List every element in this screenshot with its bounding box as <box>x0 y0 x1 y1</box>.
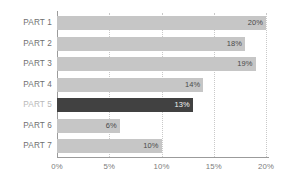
plot-area: 20%18%19%14%13%6%10% <box>57 13 266 157</box>
bar-chart: 20%18%19%14%13%6%10% PART 1PART 2PART 3P… <box>0 0 291 186</box>
bar-value-label: 18% <box>223 37 242 51</box>
x-tick-15%: 15% <box>194 162 234 171</box>
bar-part-3 <box>57 57 256 71</box>
bar-value-label: 13% <box>171 98 190 112</box>
x-tick-0%: 0% <box>37 162 77 171</box>
x-tick-10%: 10% <box>142 162 182 171</box>
category-label-part-6: PART 6 <box>2 120 52 132</box>
bar-value-label: 10% <box>140 139 159 153</box>
category-label-part-1: PART 1 <box>2 17 52 29</box>
bar-row: 13% <box>57 95 266 116</box>
bar-row: 20% <box>57 13 266 34</box>
bar-value-label: 20% <box>244 16 263 30</box>
bar-value-label: 6% <box>98 119 117 133</box>
bar-row: 19% <box>57 54 266 75</box>
category-label-part-5: PART 5 <box>2 99 52 111</box>
x-tick-20%: 20% <box>246 162 286 171</box>
bar-part-1 <box>57 16 266 30</box>
category-label-part-2: PART 2 <box>2 38 52 50</box>
x-tick-5%: 5% <box>89 162 129 171</box>
bar-value-label: 14% <box>181 78 200 92</box>
x-axis-line <box>57 157 269 158</box>
bar-value-label: 19% <box>234 57 253 71</box>
category-label-part-7: PART 7 <box>2 140 52 152</box>
bar-part-2 <box>57 37 245 51</box>
bar-row: 6% <box>57 116 266 137</box>
category-label-part-4: PART 4 <box>2 79 52 91</box>
category-label-part-3: PART 3 <box>2 58 52 70</box>
bar-row: 18% <box>57 34 266 55</box>
bar-row: 14% <box>57 75 266 96</box>
gridline-20% <box>266 13 267 157</box>
bar-row: 10% <box>57 136 266 157</box>
